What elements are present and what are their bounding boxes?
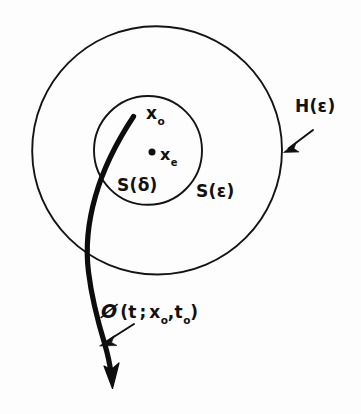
- label-trajectory-arg-t0: t: [175, 302, 183, 322]
- label-trajectory-semicolon: ;: [139, 302, 146, 322]
- stability-diagram-svg: [0, 0, 361, 414]
- label-equilibrium-state: xe: [160, 145, 177, 166]
- outer-circle-h-epsilon: [32, 26, 282, 274]
- label-inner-ball-base: S(: [117, 175, 138, 195]
- label-inner-ball-close: ): [150, 175, 158, 195]
- label-equilibrium-state-base: x: [160, 145, 171, 164]
- label-region-h-symbol: ε: [318, 96, 328, 116]
- label-inner-ball-symbol: δ: [138, 175, 150, 195]
- equilibrium-point-dot: [149, 149, 156, 156]
- label-trajectory-arg-t: t: [128, 302, 136, 322]
- label-trajectory-arg-t0-subscript: o: [183, 314, 190, 326]
- label-outer-ball-s-epsilon: S(ε): [196, 181, 234, 201]
- label-region-h-base: H(: [295, 96, 318, 116]
- label-initial-state: xo: [146, 103, 165, 125]
- label-trajectory-expression: Ø(t;xo,to): [101, 300, 198, 324]
- label-inner-ball-s-delta: S(δ): [117, 175, 158, 195]
- label-trajectory-comma: ,: [168, 302, 175, 322]
- label-equilibrium-state-subscript: e: [171, 157, 178, 168]
- label-outer-ball-symbol: ε: [217, 181, 227, 201]
- label-region-h-epsilon: H(ε): [295, 96, 335, 116]
- label-initial-state-base: x: [146, 103, 157, 123]
- label-trajectory-arg-x-subscript: o: [161, 314, 168, 326]
- label-trajectory-phi: Ø: [101, 300, 117, 322]
- label-outer-ball-base: S(: [196, 181, 217, 201]
- label-trajectory-arg-x: x: [149, 302, 160, 322]
- label-initial-state-subscript: o: [157, 115, 164, 127]
- label-region-h-close: ): [327, 96, 335, 116]
- label-outer-ball-close: ): [226, 181, 234, 201]
- figure-canvas: xo xe S(δ) S(ε) H(ε) Ø(t;xo,to): [0, 0, 361, 414]
- label-trajectory-close: ): [190, 302, 198, 322]
